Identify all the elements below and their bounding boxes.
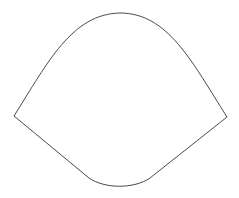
shape-outline-svg — [0, 0, 239, 198]
drawing-canvas — [0, 0, 239, 198]
closed-outline-shape — [14, 13, 227, 186]
